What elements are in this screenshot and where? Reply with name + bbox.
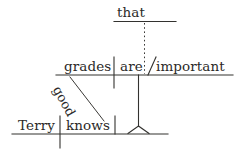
word-that: that <box>117 6 145 20</box>
pedestal-triangle-right <box>139 126 150 134</box>
modifier-slant-line-good <box>70 77 104 121</box>
pedestal-triangle-left <box>128 126 139 134</box>
word-are: are <box>120 60 143 74</box>
word-grades: grades <box>64 60 111 74</box>
word-terry: Terry <box>18 119 55 133</box>
predicate-adjective-divider <box>148 57 156 75</box>
word-knows: knows <box>66 119 110 133</box>
sentence-diagram: that grades are important good Terry kno… <box>0 0 237 159</box>
diagram-strokes <box>0 0 237 159</box>
word-important: important <box>156 60 225 74</box>
